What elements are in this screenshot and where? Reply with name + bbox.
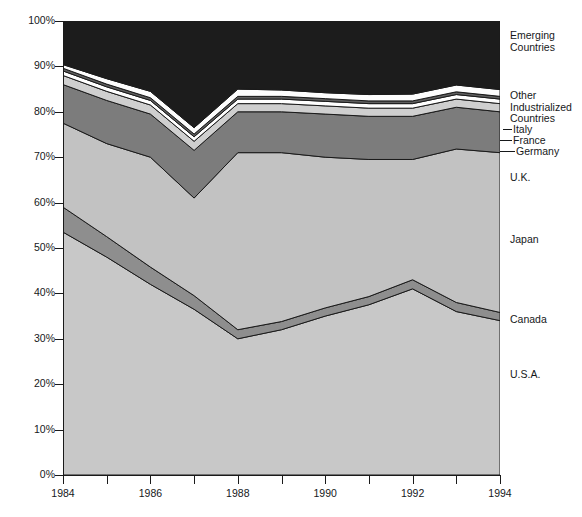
legend-label-germany: Germany [516,146,559,158]
y-axis-tick-label: 90% [11,60,55,70]
y-axis-tick-mark [55,112,63,113]
y-axis-tick-mark [55,21,63,22]
x-axis-tick-mark [238,475,239,484]
legend-leader-line-italy [503,129,512,130]
y-axis-tick-label: 10% [11,424,55,434]
y-axis-tick-label: 20% [11,378,55,388]
x-axis-tick-mark [500,475,501,484]
x-axis-tick-label: 1990 [295,487,355,499]
y-axis-tick-mark [55,66,63,67]
legend-label-usa: U.S.A. [510,369,540,381]
y-axis-tick-mark [55,293,63,294]
y-axis-tick-label: 50% [11,242,55,252]
y-axis-tick-mark [55,475,63,476]
x-axis-tick-mark [63,475,64,484]
legend-label-emerging-countries: Emerging Countries [510,30,555,53]
x-axis-tick-mark [282,475,283,484]
x-axis-tick-mark [325,475,326,484]
y-axis-tick-label: 40% [11,287,55,297]
y-axis-tick-label: 70% [11,151,55,161]
x-axis-tick-mark [456,475,457,484]
chart-root: 0%10%20%30%40%50%60%70%80%90%100% 198419… [0,0,582,517]
plot-canvas [63,21,500,475]
x-axis-tick-label: 1994 [470,487,530,499]
legend-label-uk: U.K. [510,172,530,184]
y-axis-tick-mark [55,248,63,249]
y-axis-tick-mark [55,203,63,204]
y-axis-tick-mark [55,157,63,158]
legend-leader-line-germany [500,151,515,152]
x-axis-tick-label: 1986 [120,487,180,499]
y-axis-tick-label: 100% [11,15,55,25]
y-axis-tick-label: 80% [11,106,55,116]
legend-label-canada: Canada [510,314,547,326]
y-axis-tick-mark [55,384,63,385]
y-axis: 0%10%20%30%40%50%60%70%80%90%100% [0,0,55,517]
x-axis-tick-label: 1992 [383,487,443,499]
x-axis-tick-label: 1984 [33,487,93,499]
y-axis-tick-mark [55,339,63,340]
x-axis-tick-label: 1988 [208,487,268,499]
legend-label-japan: Japan [510,234,539,246]
x-axis-tick-mark [150,475,151,484]
x-axis-tick-mark [413,475,414,484]
y-axis-tick-label: 60% [11,197,55,207]
y-axis-tick-mark [55,430,63,431]
stacked-area-plot [63,21,500,475]
x-axis-tick-mark [107,475,108,484]
y-axis-tick-label: 30% [11,333,55,343]
legend-label-other-industrialized: Other Industrialized Countries [510,90,572,125]
x-axis-tick-mark [194,475,195,484]
legend-leader-line-france [500,140,512,141]
x-axis-tick-mark [369,475,370,484]
y-axis-tick-label: 0% [11,469,55,479]
